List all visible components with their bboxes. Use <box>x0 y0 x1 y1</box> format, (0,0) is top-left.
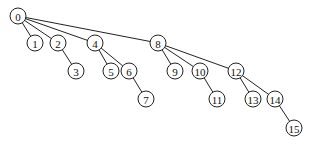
node-label: 2 <box>55 38 61 50</box>
tree-node-3: 3 <box>68 63 84 79</box>
node-label: 8 <box>155 38 161 50</box>
tree-node-8: 8 <box>150 35 166 51</box>
tree-node-2: 2 <box>50 35 66 51</box>
tree-node-11: 11 <box>209 91 225 107</box>
node-label: 6 <box>126 66 132 78</box>
node-label: 12 <box>231 66 242 78</box>
node-label: 0 <box>15 11 21 23</box>
node-label: 1 <box>32 38 38 50</box>
tree-node-6: 6 <box>121 63 137 79</box>
node-label: 5 <box>108 66 114 78</box>
tree-node-7: 7 <box>138 91 154 107</box>
tree-node-0: 0 <box>10 8 26 24</box>
tree-node-15: 15 <box>286 120 302 136</box>
binomial-tree-diagram: 0123456789101112131415 <box>0 0 312 147</box>
tree-node-9: 9 <box>167 63 183 79</box>
node-label: 7 <box>143 94 149 106</box>
node-label: 4 <box>92 38 98 50</box>
tree-node-5: 5 <box>103 63 119 79</box>
tree-node-10: 10 <box>192 63 208 79</box>
tree-node-13: 13 <box>245 91 261 107</box>
tree-node-14: 14 <box>267 91 283 107</box>
tree-edges <box>18 16 294 128</box>
tree-node-12: 12 <box>228 63 244 79</box>
node-label: 11 <box>212 94 223 106</box>
node-label: 9 <box>172 66 178 78</box>
tree-nodes: 0123456789101112131415 <box>10 8 302 136</box>
node-label: 13 <box>248 94 260 106</box>
node-label: 3 <box>73 66 79 78</box>
node-label: 10 <box>195 66 207 78</box>
tree-node-4: 4 <box>87 35 103 51</box>
node-label: 15 <box>289 123 301 135</box>
node-label: 14 <box>270 94 282 106</box>
tree-node-1: 1 <box>27 35 43 51</box>
